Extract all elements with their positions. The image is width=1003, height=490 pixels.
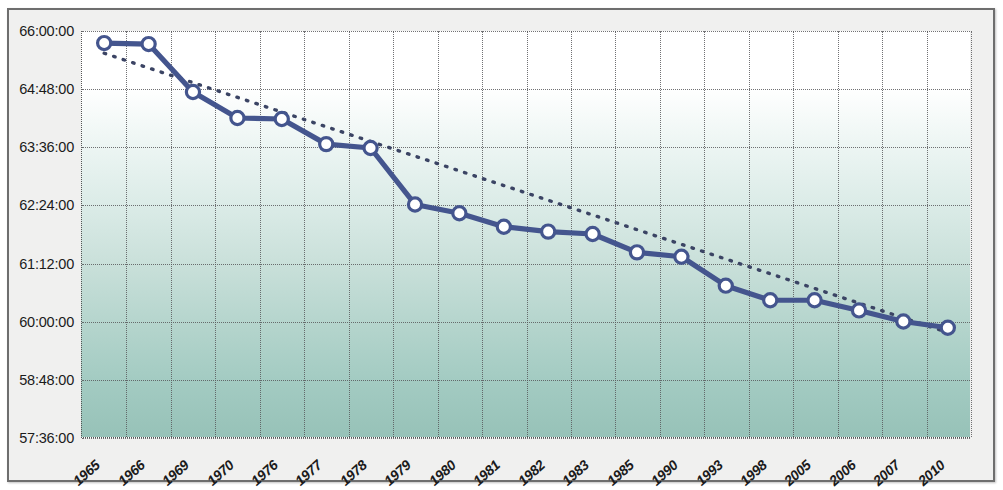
x-axis-tick-label: 1976: [248, 457, 281, 489]
y-axis-tick-label: 64:48:00: [19, 81, 74, 97]
data-point-marker[interactable]: [408, 198, 421, 211]
gridline-vertical: [971, 31, 972, 437]
x-axis-tick-label: 2005: [781, 457, 814, 489]
data-point-marker[interactable]: [98, 36, 111, 49]
x-axis-tick-label: 1982: [515, 457, 548, 489]
x-axis-tick-label: 1970: [203, 457, 236, 489]
series-overlay: [82, 31, 970, 437]
data-point-marker[interactable]: [941, 321, 954, 334]
linear-trend-line: [104, 53, 948, 332]
data-point-marker[interactable]: [808, 294, 821, 307]
x-axis-tick-label: 2007: [870, 457, 903, 489]
x-axis-tick-label: 1985: [603, 457, 636, 489]
data-point-marker[interactable]: [186, 85, 199, 98]
data-point-marker[interactable]: [453, 207, 466, 220]
data-point-marker[interactable]: [852, 304, 865, 317]
data-point-marker[interactable]: [142, 37, 155, 50]
y-axis-tick-label: 66:00:00: [19, 23, 74, 39]
x-axis-tick-label: 1977: [292, 457, 325, 489]
x-axis-tick-label: 1966: [114, 457, 147, 489]
data-point-marker[interactable]: [364, 141, 377, 154]
y-axis-tick-label: 58:48:00: [19, 372, 74, 388]
x-axis-tick-label: 2006: [826, 457, 859, 489]
y-axis-tick-label: 62:24:00: [19, 197, 74, 213]
x-axis-tick-label: 1978: [337, 457, 370, 489]
x-axis-tick-label: 1983: [559, 457, 592, 489]
x-axis-tick-label: 2010: [915, 457, 948, 489]
x-axis-tick-label: 1981: [470, 457, 503, 489]
x-axis-tick-label: 1965: [70, 457, 103, 489]
data-point-marker[interactable]: [497, 220, 510, 233]
x-axis-tick-label: 1980: [426, 457, 459, 489]
gridline-horizontal: [82, 438, 970, 439]
data-point-marker[interactable]: [275, 112, 288, 125]
x-axis-tick-label: 1998: [737, 457, 770, 489]
x-axis-tick-label: 1979: [381, 457, 414, 489]
y-axis-tick-label: 57:36:00: [19, 430, 74, 446]
y-axis-tick-label: 63:36:00: [19, 139, 74, 155]
plot-area: 66:00:0064:48:0063:36:0062:24:0061:12:00…: [81, 31, 970, 438]
chart-frame: 66:00:0064:48:0063:36:0062:24:0061:12:00…: [7, 8, 995, 482]
x-axis-tick-label: 1990: [648, 457, 681, 489]
data-point-marker[interactable]: [897, 315, 910, 328]
measured-series-line: [104, 43, 948, 328]
data-point-marker[interactable]: [320, 138, 333, 151]
data-point-marker[interactable]: [764, 294, 777, 307]
data-point-marker[interactable]: [542, 225, 555, 238]
data-point-marker[interactable]: [719, 279, 732, 292]
data-point-marker[interactable]: [586, 227, 599, 240]
y-axis-tick-label: 61:12:00: [19, 256, 74, 272]
x-axis-tick-label: 1969: [159, 457, 192, 489]
data-point-marker[interactable]: [630, 246, 643, 259]
data-point-marker[interactable]: [231, 111, 244, 124]
data-point-markers: [98, 36, 955, 334]
data-point-marker[interactable]: [675, 250, 688, 263]
x-axis-tick-label: 1993: [692, 457, 725, 489]
y-axis-tick-label: 60:00:00: [19, 314, 74, 330]
